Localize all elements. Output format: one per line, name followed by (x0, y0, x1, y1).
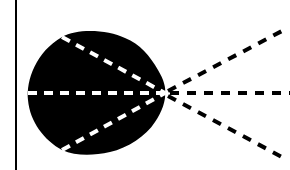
outer-rays (168, 31, 290, 157)
outer-ray-upper (168, 31, 282, 91)
outer-ray-lower (168, 96, 282, 157)
diagram-svg (0, 0, 290, 170)
ray-diagram (0, 0, 290, 170)
